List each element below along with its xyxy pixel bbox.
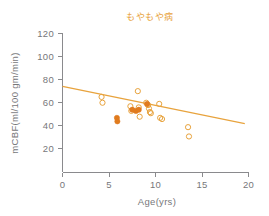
x-tick-label-5: 5 bbox=[106, 179, 112, 190]
chart-title: もやもや病 bbox=[126, 11, 174, 22]
data-point bbox=[136, 107, 141, 112]
y-axis-title: mCBF(ml/100 gm/min) bbox=[9, 52, 20, 153]
y-axis-ticks bbox=[58, 33, 63, 149]
y-tick-label-40: 40 bbox=[43, 120, 54, 131]
y-tick-label-20: 20 bbox=[43, 143, 54, 154]
scatter-plot: もやもや病 120 100 80 60 40 20 0 bbox=[0, 0, 269, 216]
x-tick-label-15: 15 bbox=[196, 179, 207, 190]
regression-trendline bbox=[63, 86, 245, 123]
x-axis-title: Age(yrs) bbox=[138, 196, 176, 207]
y-tick-label-120: 120 bbox=[37, 28, 54, 39]
x-tick-label-10: 10 bbox=[150, 179, 161, 190]
data-point bbox=[100, 100, 105, 105]
x-tick-label-0: 0 bbox=[60, 179, 66, 190]
x-tick-label-20: 20 bbox=[243, 179, 254, 190]
y-tick-label-80: 80 bbox=[43, 74, 54, 85]
data-point bbox=[135, 89, 140, 94]
y-tick-label-100: 100 bbox=[37, 51, 54, 62]
data-point bbox=[137, 114, 142, 119]
data-point bbox=[99, 94, 104, 99]
x-axis-ticks bbox=[63, 173, 249, 178]
data-point bbox=[145, 101, 150, 106]
chart-figure: もやもや病 120 100 80 60 40 20 0 bbox=[0, 0, 269, 216]
data-point bbox=[185, 125, 190, 130]
y-tick-label-60: 60 bbox=[43, 97, 54, 108]
data-point bbox=[115, 119, 120, 124]
data-point bbox=[186, 134, 191, 139]
